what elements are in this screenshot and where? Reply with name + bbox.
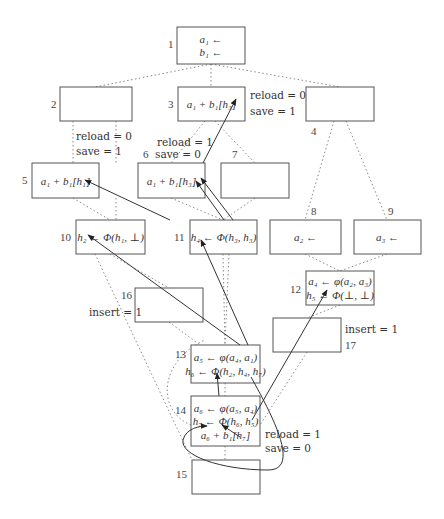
cfg-edge — [110, 254, 169, 288]
block-number: 3 — [168, 98, 174, 110]
block-instruction: a₆ ← φ(a₅, a₄) — [194, 402, 258, 415]
cfg-edge — [95, 64, 211, 87]
block-9: a₃ ←9 — [354, 205, 421, 254]
cfg-edge — [305, 121, 334, 220]
block-13: a₅ ← φ(a₄, a₁)h₆ ← Φ(h₂, h₄, h₇)13 — [175, 345, 266, 383]
block-14: a₆ ← φ(a₅, a₄)h₇ ← Φ(h₆, h₅)a₆ + b₁[h₇]1… — [175, 396, 260, 446]
annotation-label: reload = 0 — [76, 130, 132, 142]
block-instruction: h₄ ← Φ(h₃, h₃) — [191, 231, 257, 244]
cfg-edge — [340, 254, 387, 271]
annotation-label: reload = 1 — [157, 136, 213, 148]
block-instruction: h₅ ← Φ(⊥, ⊥) — [306, 289, 374, 302]
block-1: a₁ ←b₁ ←1 — [168, 27, 245, 64]
block-number: 6 — [143, 148, 149, 160]
block-instruction: a₁ + b₁[h₃] — [187, 98, 236, 110]
block-box — [221, 163, 289, 198]
block-number: 8 — [311, 205, 317, 217]
annotation-label: insert = 1 — [89, 306, 142, 318]
diagram-canvas: a₁ ←b₁ ←12a₁ + b₁[h₃]34a₁ + b₁[h₁]5a₁ + … — [0, 0, 444, 519]
block-instruction: a₁ + b₁[h₁] — [41, 175, 90, 187]
block-17: 17 — [273, 318, 357, 352]
block-instruction: a₁ + b₁[h₃] — [147, 175, 196, 187]
cfg-edge — [346, 121, 387, 220]
block-number: 4 — [311, 125, 317, 137]
annotation-label: reload = 1 — [265, 428, 321, 440]
block-box — [192, 460, 260, 494]
block-number: 10 — [60, 231, 72, 243]
annotation-label: reload = 0 — [250, 89, 306, 101]
dependency-arrow — [201, 240, 248, 345]
block-instruction: a₂ ← — [294, 231, 317, 243]
block-instruction: h₂ ← Φ(h₁, ⊥) — [77, 231, 144, 244]
block-7: 7 — [221, 148, 289, 198]
block-11: h₄ ← Φ(h₃, h₃)11 — [174, 220, 257, 254]
cfg-edge — [225, 254, 229, 345]
block-number: 7 — [232, 148, 238, 160]
block-number: 1 — [168, 38, 174, 50]
block-box — [273, 318, 341, 352]
block-number: 14 — [175, 404, 187, 416]
block-instruction: a₆ + b₁[h₇] — [201, 429, 250, 441]
block-number: 9 — [388, 205, 394, 217]
block-8: a₂ ←8 — [270, 205, 341, 254]
cfg-edge — [73, 198, 110, 220]
annotation-label: save = 1 — [76, 145, 122, 157]
cfg-edge — [223, 198, 255, 220]
block-number: 12 — [290, 283, 301, 295]
block-12: a₄ ← φ(a₂, a₃)h₅ ← Φ(⊥, ⊥)12 — [290, 271, 374, 305]
cfg-edge — [211, 64, 340, 87]
block-number: 13 — [175, 348, 187, 360]
annotation-label: save = 0 — [265, 442, 311, 454]
annotation-label: insert = 1 — [345, 323, 398, 335]
block-box — [306, 87, 374, 121]
ssa-cfg-diagram: a₁ ←b₁ ←12a₁ + b₁[h₃]34a₁ + b₁[h₁]5a₁ + … — [0, 0, 444, 519]
block-number: 16 — [121, 289, 133, 301]
basic-blocks: a₁ ←b₁ ←12a₁ + b₁[h₃]34a₁ + b₁[h₁]5a₁ + … — [22, 27, 421, 494]
block-number: 15 — [176, 468, 188, 480]
block-instruction: h₆ ← Φ(h₂, h₄, h₇) — [185, 365, 266, 378]
block-number: 17 — [345, 339, 357, 351]
block-2: 2 — [51, 87, 132, 121]
block-instruction: a₁ ← — [199, 33, 222, 45]
block-number: 11 — [174, 231, 185, 243]
block-number: 2 — [51, 98, 57, 110]
block-15: 15 — [176, 460, 260, 494]
annotation-label: save = 0 — [155, 148, 201, 160]
annotation-label: save = 1 — [250, 105, 296, 117]
block-10: h₂ ← Φ(h₁, ⊥)10 — [60, 220, 145, 254]
block-4: 4 — [306, 87, 374, 137]
block-number: 5 — [22, 174, 28, 186]
block-box — [60, 87, 132, 121]
block-instruction: a₃ ← — [376, 231, 399, 243]
cfg-edge — [305, 254, 340, 271]
block-instruction: b₁ ← — [199, 46, 222, 58]
block-instruction: a₅ ← φ(a₄, a₁) — [194, 351, 258, 364]
cfg-edge — [169, 322, 200, 345]
cfg-edge — [223, 254, 225, 345]
dependency-arrow — [196, 181, 224, 220]
cfg-edge — [171, 198, 223, 220]
block-5: a₁ + b₁[h₁]5 — [22, 163, 99, 198]
cfg-edge — [260, 352, 307, 425]
block-instruction: a₄ ← φ(a₂, a₃) — [308, 275, 372, 288]
